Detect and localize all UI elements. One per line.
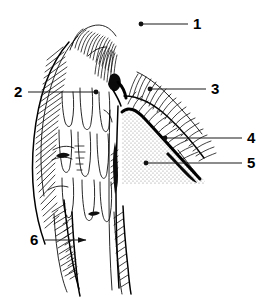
figure-root: 1 2 3 4 5 6	[0, 0, 268, 297]
contour-accents	[48, 47, 112, 216]
dark-accent-blotch-2	[88, 212, 100, 216]
left-oblique-hatching	[36, 47, 67, 228]
hatched-tissue-mass	[33, 36, 80, 292]
callout-1[interactable]: 1	[141, 15, 201, 32]
callout-2[interactable]: 2	[14, 83, 96, 100]
callout-5-label: 5	[247, 154, 255, 171]
callout-6-label: 6	[30, 231, 38, 248]
anatomical-line-drawing: 1 2 3 4 5 6	[0, 0, 268, 297]
callout-4[interactable]: 4	[165, 129, 256, 146]
central-septum	[109, 106, 119, 290]
callout-1-label: 1	[193, 15, 201, 32]
callout-4-label: 4	[247, 129, 256, 146]
callout-6[interactable]: 6	[30, 231, 86, 248]
callout-3-label: 3	[211, 80, 219, 97]
callout-2-label: 2	[14, 83, 22, 100]
crest-villi-strokes	[70, 25, 126, 106]
callout-3[interactable]: 3	[150, 80, 219, 97]
